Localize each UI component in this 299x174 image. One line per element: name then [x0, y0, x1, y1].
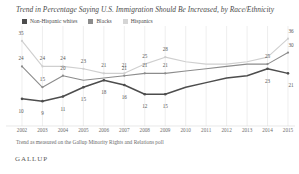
data-point: [266, 63, 268, 65]
data-label: 21: [163, 62, 168, 68]
data-label: 36: [288, 28, 293, 34]
data-label: 15: [40, 76, 45, 82]
legend-swatch-non-hispanic-whites: [22, 19, 27, 24]
data-label: 9: [41, 110, 44, 116]
data-point: [287, 38, 289, 40]
data-point: [41, 86, 43, 88]
data-point: [82, 68, 84, 70]
data-point: [21, 40, 23, 42]
data-point: [103, 79, 106, 82]
data-label: 25: [265, 53, 270, 59]
data-label: 21: [288, 82, 293, 88]
data-point: [123, 72, 125, 74]
x-axis-tick-2010: 2010: [181, 127, 191, 133]
x-axis-tick-2009: 2009: [160, 127, 170, 133]
x-axis-tick-2012: 2012: [221, 127, 231, 133]
data-label: 24: [18, 55, 23, 61]
data-label: 18: [101, 89, 106, 95]
data-point: [287, 72, 290, 75]
x-axis-tick-2015: 2015: [283, 127, 293, 133]
x-axis-tick-2008: 2008: [140, 127, 150, 133]
data-point: [41, 65, 43, 67]
x-axis-tick-2003: 2003: [37, 127, 47, 133]
data-label: 30: [288, 42, 293, 48]
data-label: 15: [163, 103, 168, 109]
legend-item-blacks: Blacks: [88, 18, 111, 24]
legend-label-non-hispanic-whites: Non-Hispanic whites: [30, 18, 77, 24]
data-point: [62, 75, 64, 77]
data-point: [164, 56, 166, 58]
chart-legend: Non-Hispanic whites Blacks Hispanics: [22, 18, 164, 24]
gallup-logo: GALLUP: [15, 155, 48, 163]
data-label: 24: [60, 55, 65, 61]
x-axis-tick-2013: 2013: [242, 127, 252, 133]
data-label: 16: [122, 94, 127, 100]
data-label: 12: [142, 103, 147, 109]
x-axis-tick-2011: 2011: [201, 127, 211, 133]
data-point: [123, 84, 126, 87]
data-label: 28: [163, 46, 168, 52]
chart-page: Trend in Percentage Saying U.S. Immigrat…: [0, 0, 299, 174]
data-point: [21, 65, 23, 67]
data-point: [164, 93, 167, 96]
legend-swatch-hispanics: [123, 19, 128, 24]
data-point: [143, 93, 146, 96]
x-axis-tick-2004: 2004: [58, 127, 68, 133]
data-label: 10: [18, 108, 23, 114]
chart-footnote: Trend as measured on the Gallup Minority…: [16, 139, 164, 145]
data-label: 35: [18, 30, 23, 36]
x-axis-tick-2002: 2002: [17, 127, 27, 133]
data-label: 20: [60, 65, 65, 71]
data-label: 11: [60, 106, 65, 112]
data-label: 21: [101, 62, 106, 68]
data-point: [287, 51, 289, 53]
data-label: 23: [265, 78, 270, 84]
data-point: [123, 75, 125, 77]
data-point: [21, 98, 24, 101]
x-axis-tick-2005: 2005: [78, 127, 88, 133]
chart-title: Trend in Percentage Saying U.S. Immigrat…: [16, 5, 291, 14]
legend-swatch-blacks: [88, 19, 93, 24]
legend-label-hispanics: Hispanics: [131, 18, 153, 24]
data-point: [62, 95, 65, 98]
x-axis: 2002200320042005200620072008200920102011…: [0, 127, 299, 137]
data-point: [103, 72, 105, 74]
legend-item-hispanics: Hispanics: [123, 18, 153, 24]
legend-label-blacks: Blacks: [96, 18, 111, 24]
data-label: 15: [81, 96, 86, 102]
data-label: 21: [122, 62, 127, 68]
data-label: 23: [81, 58, 86, 64]
data-point: [164, 72, 166, 74]
data-label: 24: [40, 55, 45, 61]
chart-plot-area: 1091115181612152321241520212121253035242…: [0, 26, 299, 130]
x-axis-tick-2006: 2006: [99, 127, 109, 133]
data-point: [266, 67, 269, 70]
data-point: [82, 86, 85, 89]
data-label: 25: [142, 53, 147, 59]
data-label: 21: [142, 62, 147, 68]
legend-item-non-hispanic-whites: Non-Hispanic whites: [22, 18, 77, 24]
data-point: [144, 72, 146, 74]
x-axis-tick-2014: 2014: [262, 127, 272, 133]
x-axis-tick-2007: 2007: [119, 127, 129, 133]
data-point: [41, 100, 44, 103]
